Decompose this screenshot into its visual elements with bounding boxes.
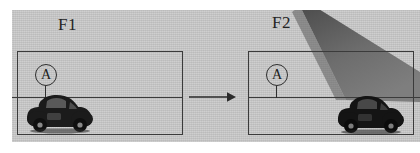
marker-a-f2-label: A: [266, 64, 288, 86]
panel-f1-label: F1: [58, 16, 77, 33]
vehicle-f1: [25, 91, 95, 135]
figure-root: F1 A: [0, 0, 420, 153]
transition-arrow: [189, 90, 237, 104]
panel-f2-label: F2: [272, 14, 291, 31]
marker-a-f2-stem: [276, 86, 277, 98]
vehicle-f2: [336, 92, 406, 136]
marker-a-f1-label: A: [35, 64, 57, 86]
